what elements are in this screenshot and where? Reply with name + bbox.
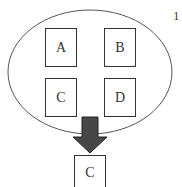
- item-box-a: A: [45, 28, 77, 67]
- item-box-d: D: [104, 78, 136, 117]
- item-box-c: C: [45, 78, 77, 117]
- result-box: C: [74, 155, 106, 187]
- down-arrow-icon: [73, 117, 107, 153]
- item-box-b: B: [104, 28, 136, 67]
- set-ellipse: [8, 10, 172, 134]
- figure-number: 1: [173, 8, 180, 24]
